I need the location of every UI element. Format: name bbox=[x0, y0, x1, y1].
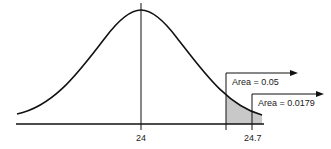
mean-label: 24 bbox=[136, 133, 146, 143]
arrow-head-1-icon bbox=[290, 70, 298, 76]
area-label-1: Area = 0.05 bbox=[232, 77, 279, 87]
normal-curve-diagram: Area = 0.05 Area = 0.0179 24 24.7 bbox=[0, 0, 331, 149]
arrow-head-2-icon bbox=[316, 91, 324, 97]
area-label-2: Area = 0.0179 bbox=[258, 98, 315, 108]
bell-curve bbox=[17, 10, 262, 115]
critical-label: 24.7 bbox=[244, 133, 262, 143]
